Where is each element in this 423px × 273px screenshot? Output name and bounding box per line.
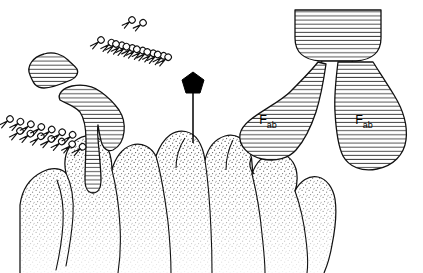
antibody-cell-illustration: Fab Fab (0, 0, 423, 273)
fc-region (290, 6, 386, 66)
figure-canvas: Fab Fab (0, 0, 423, 273)
